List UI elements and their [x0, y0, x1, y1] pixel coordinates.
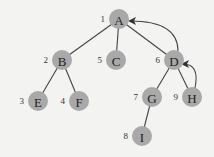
tree-nodes: A1B2C5D6E3F4G7H9I8 — [20, 9, 203, 146]
arrow-H-to-D — [183, 64, 196, 88]
tree-diagram: A1B2C5D6E3F4G7H9I8 — [0, 0, 214, 157]
visit-order-label: 3 — [20, 96, 25, 106]
visit-order-label: 8 — [124, 131, 129, 141]
node-label: D — [169, 54, 178, 69]
visit-order-label: 5 — [98, 55, 103, 65]
node-G: G7 — [134, 87, 163, 107]
visit-order-label: 4 — [61, 96, 66, 106]
visit-order-label: 1 — [101, 14, 106, 24]
node-label: F — [75, 95, 82, 110]
node-H: H9 — [174, 87, 203, 107]
node-B: B2 — [44, 50, 73, 70]
node-label: C — [112, 54, 121, 69]
node-label: E — [34, 95, 42, 110]
node-I: I8 — [124, 126, 153, 146]
edge-A-D — [119, 19, 174, 60]
visit-order-label: 6 — [156, 55, 161, 65]
visit-order-label: 2 — [44, 55, 49, 65]
node-A: A1 — [101, 9, 130, 29]
node-D: D6 — [156, 50, 185, 70]
node-label: A — [114, 13, 124, 28]
visit-order-label: 9 — [174, 92, 179, 102]
node-label: B — [58, 54, 67, 69]
arrow-D-to-A — [130, 21, 178, 51]
node-label: I — [140, 130, 144, 145]
node-label: H — [187, 91, 196, 106]
visit-order-label: 7 — [134, 92, 139, 102]
node-label: G — [147, 91, 156, 106]
node-E: E3 — [20, 91, 49, 111]
node-C: C5 — [98, 50, 127, 70]
tree-edges — [38, 19, 192, 136]
node-F: F4 — [61, 91, 90, 111]
